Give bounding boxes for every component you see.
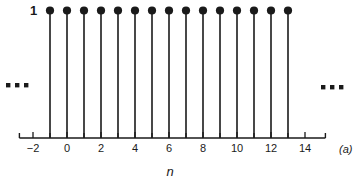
stem bbox=[80, 6, 88, 138]
stem-marker bbox=[267, 6, 275, 14]
stem-plot-svg bbox=[0, 0, 364, 191]
stem bbox=[114, 6, 122, 138]
stem-marker bbox=[250, 6, 258, 14]
stem bbox=[97, 6, 105, 138]
x-tick-label: 4 bbox=[132, 143, 138, 154]
x-axis-title: n bbox=[166, 165, 173, 178]
x-tick-label: 12 bbox=[265, 143, 277, 154]
stem bbox=[233, 6, 241, 138]
panel-label: (a) bbox=[339, 144, 352, 155]
stem-marker bbox=[148, 6, 156, 14]
stem-marker bbox=[114, 6, 122, 14]
x-tick-label: 0 bbox=[64, 143, 70, 154]
stem-marker bbox=[97, 6, 105, 14]
ellipsis-group bbox=[6, 83, 343, 89]
stem bbox=[165, 6, 173, 138]
x-tick-label: 8 bbox=[200, 143, 206, 154]
stem bbox=[216, 6, 224, 138]
stem-marker bbox=[284, 6, 292, 14]
stem bbox=[131, 6, 139, 138]
x-tick-label: 14 bbox=[299, 143, 311, 154]
ellipsis-right bbox=[321, 85, 343, 89]
x-tick-label: −2 bbox=[27, 143, 40, 154]
stem bbox=[182, 6, 190, 138]
stem-marker bbox=[131, 6, 139, 14]
stem-marker bbox=[199, 6, 207, 14]
stem bbox=[148, 6, 156, 138]
ellipsis-left bbox=[6, 83, 28, 87]
stem bbox=[250, 6, 258, 138]
stem bbox=[199, 6, 207, 138]
stem bbox=[46, 6, 54, 138]
figure-panel: 1 n (a) −202468101214 bbox=[0, 0, 364, 191]
stem bbox=[267, 6, 275, 138]
x-axis-group bbox=[19, 132, 325, 138]
stem-marker bbox=[80, 6, 88, 14]
stem-marker bbox=[165, 6, 173, 14]
stem-marker bbox=[216, 6, 224, 14]
stem bbox=[63, 6, 71, 138]
x-tick-label: 2 bbox=[98, 143, 104, 154]
x-tick-label: 6 bbox=[166, 143, 172, 154]
stem bbox=[284, 6, 292, 138]
stems-group bbox=[46, 6, 292, 138]
stem-marker bbox=[233, 6, 241, 14]
stem-marker bbox=[182, 6, 190, 14]
stem-marker bbox=[46, 6, 54, 14]
x-tick-label: 10 bbox=[231, 143, 243, 154]
amplitude-label: 1 bbox=[30, 4, 37, 17]
stem-marker bbox=[63, 6, 71, 14]
